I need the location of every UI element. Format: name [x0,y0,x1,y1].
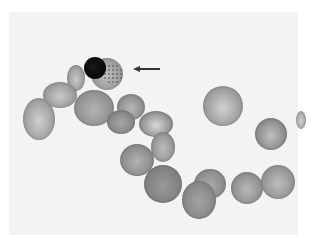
red-blood-cell [151,132,175,162]
red-blood-cell [255,118,287,150]
arrow-shaft [138,68,160,70]
red-blood-cell [203,86,243,126]
red-blood-cell [107,110,135,134]
red-blood-cell [182,181,216,219]
cell-nucleus [84,57,106,79]
stippled-cytoplasm [103,64,123,84]
red-blood-cell [43,82,77,108]
red-blood-cell [296,111,306,129]
red-blood-cell [144,165,182,203]
red-blood-cell [261,165,295,199]
red-blood-cell [231,172,263,204]
arrow-pointer-icon [133,66,140,72]
